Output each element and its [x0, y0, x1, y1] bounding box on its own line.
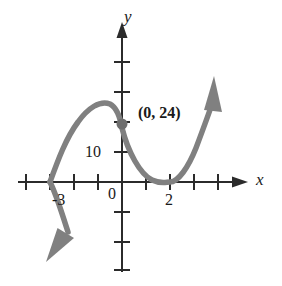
x-tick-label-2: 2 — [165, 192, 173, 208]
y-intercept-point — [117, 119, 128, 130]
curve-end-arrowhead — [204, 76, 222, 112]
x-axis-label: x — [256, 171, 264, 188]
x-axis-arrowhead — [232, 177, 248, 188]
cubic-curve — [46, 76, 222, 262]
coordinate-plane — [0, 0, 282, 286]
y-tick-label-10: 10 — [85, 144, 101, 160]
x-tick-label--3: -3 — [52, 192, 65, 208]
point-label-0-24: (0, 24) — [138, 105, 181, 121]
curve-body — [50, 103, 212, 183]
y-axis-label: y — [124, 8, 132, 25]
origin-label: 0 — [108, 186, 116, 202]
graph-figure: y x (0, 24) 10 -3 2 0 — [0, 0, 282, 286]
